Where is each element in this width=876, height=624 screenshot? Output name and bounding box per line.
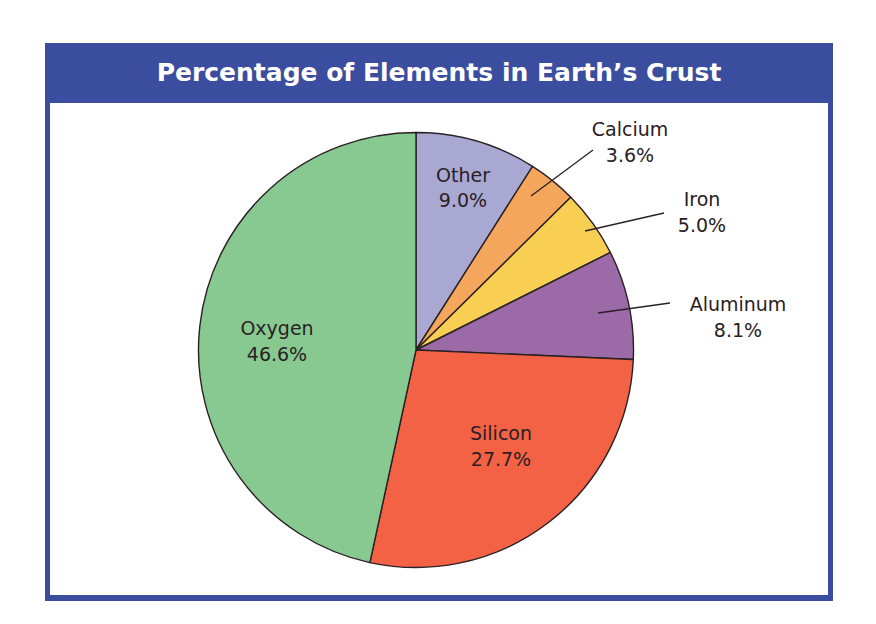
label-aluminum-name: Aluminum [690,293,787,315]
label-iron-value: 5.0% [678,214,726,236]
pie-chart: Other 9.0% Calcium 3.6% Iron 5.0% Alumin… [50,103,828,595]
chart-title: Percentage of Elements in Earth’s Crust [157,58,722,87]
label-calcium-value: 3.6% [606,144,654,166]
label-oxygen-name: Oxygen [240,317,313,339]
label-silicon-name: Silicon [470,422,532,444]
label-oxygen-value: 46.6% [247,343,307,365]
label-iron-name: Iron [684,188,721,210]
label-other-name: Other [436,164,490,186]
label-aluminum-value: 8.1% [714,319,762,341]
label-calcium-name: Calcium [592,118,668,140]
chart-frame: Percentage of Elements in Earth’s Crust … [45,43,833,601]
label-other-value: 9.0% [439,189,487,211]
title-bar: Percentage of Elements in Earth’s Crust [45,43,833,103]
label-silicon-value: 27.7% [471,448,531,470]
leader-line-iron [585,213,664,231]
pie-slice-oxygen [198,133,416,563]
plot-area: Other 9.0% Calcium 3.6% Iron 5.0% Alumin… [50,103,828,595]
